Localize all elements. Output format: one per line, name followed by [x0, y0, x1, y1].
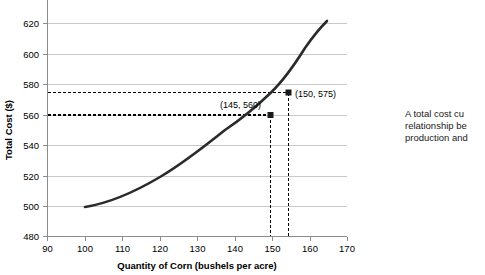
y-tick-label-500: 500 — [23, 201, 39, 212]
y-tick-label-620: 620 — [23, 18, 39, 29]
y-tick-label-560: 560 — [23, 110, 39, 121]
y-tick-label-600: 600 — [23, 49, 39, 60]
annotation-leaders — [48, 93, 289, 237]
total-cost-curve-plot: 620 600 580 560 540 520 500 480 Total Co… — [0, 0, 400, 275]
x-tick-labels: 90 100 110 120 130 140 150 160 170 — [42, 243, 355, 254]
chart-screenshot: 620 600 580 560 540 520 500 480 Total Co… — [0, 0, 485, 275]
annotation-label-145-560: (145, 560) — [220, 100, 261, 110]
x-tick-label-90: 90 — [42, 243, 53, 254]
y-axis-title: Total Cost ($) — [3, 100, 14, 160]
y-tick-label-520: 520 — [23, 171, 39, 182]
side-caption-line-2: relationship be — [405, 120, 485, 132]
x-axis-title: Quantity of Corn (bushels per acre) — [117, 260, 276, 271]
total-cost-curve — [85, 21, 327, 207]
x-tick-label-110: 110 — [115, 243, 130, 254]
x-tick-label-140: 140 — [227, 243, 243, 254]
x-tick-label-130: 130 — [190, 243, 206, 254]
data-point-marker-145-560 — [268, 112, 274, 118]
x-tick-label-170: 170 — [339, 243, 355, 254]
side-caption: A total cost cu relationship be producti… — [405, 108, 485, 144]
chart-figure: 620 600 580 560 540 520 500 480 Total Co… — [0, 0, 400, 275]
y-tick-label-580: 580 — [23, 79, 39, 90]
x-tick-label-120: 120 — [152, 243, 168, 254]
y-tick-labels: 620 600 580 560 540 520 500 480 — [23, 18, 39, 242]
y-axis — [43, 0, 48, 237]
x-tick-label-150: 150 — [265, 243, 281, 254]
side-caption-line-3: production and — [405, 132, 485, 144]
x-axis — [47, 237, 347, 242]
x-tick-label-100: 100 — [77, 243, 93, 254]
data-point-marker-150-575 — [286, 90, 292, 96]
y-tick-label-480: 480 — [23, 231, 39, 242]
y-tick-label-540: 540 — [23, 140, 39, 151]
annotation-label-150-575: (150, 575) — [295, 89, 336, 99]
x-tick-label-160: 160 — [302, 243, 318, 254]
side-caption-line-1: A total cost cu — [405, 108, 485, 120]
